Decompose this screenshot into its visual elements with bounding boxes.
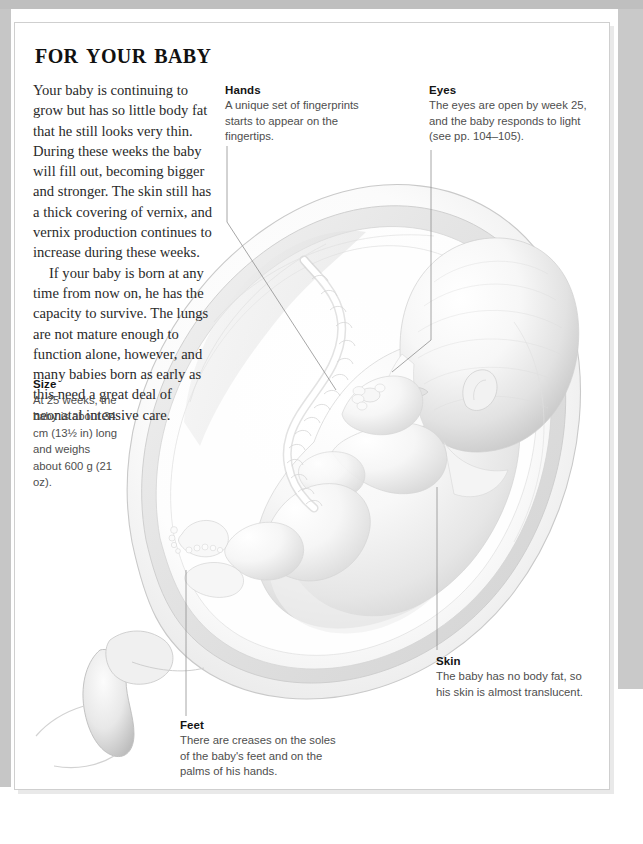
callout-size-title: Size [33, 378, 121, 390]
callout-size: Size At 25 weeks, the baby is about 34 c… [33, 378, 121, 490]
callout-skin: Skin The baby has no body fat, so his sk… [436, 655, 594, 700]
callout-size-body: At 25 weeks, the baby is about 34 cm (13… [33, 392, 121, 490]
page-bleed-left [0, 9, 11, 787]
callout-feet-title: Feet [180, 719, 340, 731]
callout-feet-body: There are creases on the soles of the ba… [180, 733, 340, 780]
page-bleed-top [0, 0, 643, 9]
body-text: Your baby is continuing to grow but has … [33, 80, 221, 425]
callout-hands: Hands A unique set of fingerprints start… [225, 84, 360, 145]
page-bleed-right [618, 9, 643, 689]
callout-eyes: Eyes The eyes are open by week 25, and t… [429, 84, 601, 145]
book-page: For your baby Your baby is continuing to… [0, 0, 643, 844]
callout-hands-title: Hands [225, 84, 360, 96]
callout-eyes-title: Eyes [429, 84, 601, 96]
cervix [36, 631, 204, 768]
callout-skin-title: Skin [436, 655, 594, 667]
body-paragraph-1: Your baby is continuing to grow but has … [33, 80, 221, 263]
callout-eyes-body: The eyes are open by week 25, and the ba… [429, 98, 601, 145]
callout-feet: Feet There are creases on the soles of t… [180, 719, 340, 780]
callout-skin-body: The baby has no body fat, so his skin is… [436, 669, 594, 700]
callout-hands-body: A unique set of fingerprints starts to a… [225, 98, 360, 145]
page-title: For your baby [35, 37, 211, 70]
